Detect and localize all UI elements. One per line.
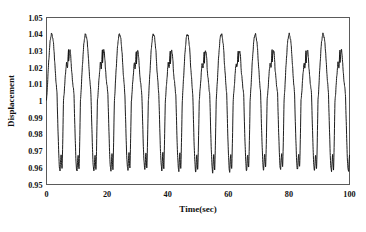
y-tick-label: 1.05 (28, 14, 42, 23)
y-tick-label: 1.02 (28, 64, 42, 73)
x-tick-label: 80 (285, 190, 293, 199)
y-tick-label: 0.99 (28, 114, 42, 123)
x-tick-label: 60 (224, 190, 232, 199)
x-axis-title: Time(sec) (179, 204, 216, 214)
x-tick-label: 0 (44, 190, 48, 199)
y-tick-label: 0.97 (28, 147, 42, 156)
y-tick-label: 1 (38, 97, 42, 106)
displacement-time-chart: 0.950.960.970.980.9911.011.021.031.041.0… (0, 0, 366, 232)
x-tick-label: 20 (103, 190, 111, 199)
chart-figure: 0.950.960.970.980.9911.011.021.031.041.0… (0, 0, 366, 232)
y-tick-label: 1.04 (28, 30, 42, 39)
x-tick-label: 100 (343, 190, 355, 199)
y-tick-label: 0.98 (28, 130, 42, 139)
x-tick-label: 40 (164, 190, 172, 199)
y-tick-label: 1.03 (28, 47, 42, 56)
y-tick-label: 0.96 (28, 164, 42, 173)
y-tick-label: 0.95 (28, 181, 42, 190)
y-axis-title: Displacement (6, 75, 16, 127)
y-tick-label: 1.01 (28, 80, 42, 89)
